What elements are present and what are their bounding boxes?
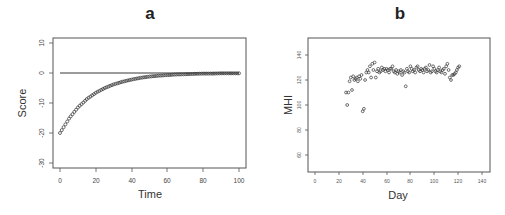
chart-b-xlabel: Day xyxy=(388,189,408,201)
chart-b-xtick: 140 xyxy=(478,178,487,184)
data-point xyxy=(78,104,81,107)
chart-b-ytick: 100 xyxy=(296,101,302,110)
data-point xyxy=(360,74,363,77)
data-point xyxy=(370,76,373,79)
chart-a-xlabel: Time xyxy=(138,188,162,200)
data-point xyxy=(401,74,404,77)
chart-b-ytick: 140 xyxy=(296,51,302,60)
chart-b-xtick: 120 xyxy=(454,178,463,184)
chart-a: a 10 0 -10 -20 -30 Score 0 20 40 xyxy=(16,4,246,200)
chart-a-xtick: 0 xyxy=(58,177,62,184)
data-point xyxy=(422,71,425,74)
chart-a-ytick: 10 xyxy=(38,39,45,47)
chart-b-xtick: 80 xyxy=(407,178,413,184)
chart-b-xtick: 20 xyxy=(336,178,342,184)
chart-b-xtick: 40 xyxy=(360,178,366,184)
chart-b-points xyxy=(345,61,461,113)
data-point xyxy=(369,65,372,68)
data-point xyxy=(363,107,366,110)
chart-b-ylabel: MHI xyxy=(282,95,294,115)
chart-a-xtick: 60 xyxy=(163,177,171,184)
chart-a-ytick: -10 xyxy=(38,98,45,108)
data-point xyxy=(391,65,394,68)
chart-a-ylabel: Score xyxy=(16,89,28,118)
data-point xyxy=(404,85,407,88)
chart-a-xtick: 80 xyxy=(199,177,207,184)
data-point xyxy=(357,80,360,83)
figure: a 10 0 -10 -20 -30 Score 0 20 40 xyxy=(0,0,505,215)
data-point xyxy=(359,77,362,80)
chart-a-y-axis: 10 0 -10 -20 -30 Score xyxy=(16,39,53,168)
data-point xyxy=(388,71,391,74)
chart-a-points xyxy=(59,72,241,135)
data-point xyxy=(59,132,62,135)
chart-b-xtick: 0 xyxy=(314,178,317,184)
chart-b: b 140 120 100 80 60 MHI 0 20 40 xyxy=(282,4,490,201)
data-point xyxy=(64,123,67,126)
chart-b-ytick: 80 xyxy=(296,127,302,133)
data-point xyxy=(346,104,349,107)
chart-a-ytick: 0 xyxy=(38,71,45,75)
chart-a-title: a xyxy=(145,4,155,23)
chart-b-ytick: 120 xyxy=(296,76,302,85)
data-point xyxy=(62,126,65,129)
data-point xyxy=(66,120,69,123)
data-point xyxy=(438,66,441,69)
data-point xyxy=(352,75,355,78)
data-point xyxy=(374,76,377,79)
data-point xyxy=(446,62,449,65)
data-point xyxy=(377,67,380,70)
data-point xyxy=(444,72,447,75)
chart-a-ytick: -20 xyxy=(38,128,45,138)
chart-b-x-axis: 0 20 40 60 80 100 120 140 Day xyxy=(314,172,487,201)
data-point xyxy=(414,71,417,74)
data-point xyxy=(447,69,450,72)
chart-a-xtick: 100 xyxy=(234,177,245,184)
data-point xyxy=(60,129,63,132)
chart-a-x-axis: 0 20 40 60 80 100 Time xyxy=(58,168,245,200)
chart-a-ytick: -30 xyxy=(38,158,45,168)
data-point xyxy=(450,79,453,82)
chart-b-xtick: 100 xyxy=(430,178,439,184)
chart-b-ytick: 60 xyxy=(296,152,302,158)
data-point xyxy=(372,69,375,72)
data-point xyxy=(351,89,354,92)
chart-b-title: b xyxy=(395,4,405,23)
data-point xyxy=(428,64,431,67)
chart-a-xtick: 40 xyxy=(128,177,136,184)
chart-b-y-axis: 140 120 100 80 60 MHI xyxy=(282,51,308,158)
data-point xyxy=(364,79,367,82)
data-point xyxy=(348,80,351,83)
data-point xyxy=(76,106,79,109)
chart-b-plot-area xyxy=(308,38,490,172)
data-point xyxy=(373,61,376,64)
chart-a-xtick: 20 xyxy=(92,177,100,184)
chart-b-xtick: 60 xyxy=(384,178,390,184)
